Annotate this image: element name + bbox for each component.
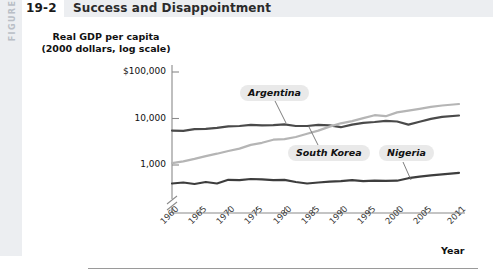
y-tick-label: 1,000	[140, 159, 166, 169]
figure-title: Success and Disappointment	[73, 1, 271, 15]
callout-leader-argentina	[275, 101, 286, 123]
series-line-nigeria	[172, 173, 459, 184]
figure-number: 19-2	[26, 1, 57, 15]
series-callout-south-korea: South Korea	[288, 145, 370, 161]
bottom-divider	[88, 268, 478, 269]
series-callout-argentina: Argentina	[240, 85, 309, 101]
series-callout-nigeria: Nigeria	[379, 145, 434, 161]
chart-panel: Real GDP per capita (2000 dollars, log s…	[22, 17, 493, 256]
series-lines-group	[172, 104, 459, 184]
series-line-argentina	[172, 116, 459, 131]
callout-leader-nigeria	[403, 162, 411, 180]
figure-side-band: FIGURE	[0, 0, 22, 256]
callout-leader-south-korea	[309, 127, 318, 145]
x-axis-title: Year	[441, 245, 465, 256]
y-tick-label: 10,000	[135, 113, 167, 123]
figure-band-label: FIGURE	[8, 0, 17, 53]
y-tick-label: $100,000	[123, 66, 166, 76]
callout-leader-lines	[275, 101, 411, 180]
axis-group	[167, 65, 465, 213]
